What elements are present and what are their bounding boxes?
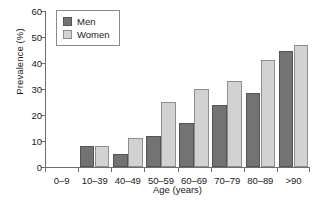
y-axis-line bbox=[45, 11, 46, 168]
bar-men-6 bbox=[246, 93, 261, 167]
bar-women-4 bbox=[194, 89, 209, 167]
x-tick-mark bbox=[309, 168, 310, 172]
x-axis-title: Age (years) bbox=[45, 184, 310, 195]
y-tick-label: 0 bbox=[37, 162, 42, 173]
x-tick-mark bbox=[178, 168, 179, 172]
bar-men-1 bbox=[80, 146, 95, 167]
y-axis-title: Prevalence (%) bbox=[14, 2, 25, 122]
x-tick-mark bbox=[78, 168, 79, 172]
legend-label-men: Men bbox=[77, 17, 95, 27]
bar-women-1 bbox=[95, 146, 110, 167]
y-tick-label: 30 bbox=[31, 84, 42, 95]
legend-item-women: Women bbox=[63, 28, 110, 41]
bar-women-7 bbox=[294, 45, 309, 167]
bar-women-2 bbox=[128, 138, 143, 167]
bar-women-6 bbox=[261, 60, 276, 167]
bar-women-5 bbox=[227, 81, 242, 167]
x-tick-mark bbox=[144, 168, 145, 172]
x-tick-mark bbox=[244, 168, 245, 172]
bar-men-5 bbox=[212, 105, 227, 167]
chart-legend: Men Women bbox=[56, 10, 120, 46]
x-tick-mark bbox=[277, 168, 278, 172]
legend-swatch-men bbox=[63, 17, 72, 26]
legend-item-men: Men bbox=[63, 15, 110, 28]
x-tick-mark bbox=[111, 168, 112, 172]
bar-men-3 bbox=[146, 136, 161, 167]
bar-women-3 bbox=[161, 102, 176, 167]
bar-men-4 bbox=[179, 123, 194, 167]
x-tick-mark bbox=[211, 168, 212, 172]
y-tick-label: 10 bbox=[31, 136, 42, 147]
y-tick-label: 50 bbox=[31, 32, 42, 43]
prevalence-by-age-bar-chart: Prevalence (%) 0102030405060 0–910–3940–… bbox=[0, 0, 318, 203]
bar-men-2 bbox=[113, 154, 128, 167]
legend-swatch-women bbox=[63, 30, 72, 39]
y-tick-label: 20 bbox=[31, 110, 42, 121]
y-tick-label: 40 bbox=[31, 58, 42, 69]
y-tick-label: 60 bbox=[31, 6, 42, 17]
legend-label-women: Women bbox=[77, 30, 110, 40]
x-tick-mark bbox=[45, 168, 46, 172]
bar-men-7 bbox=[279, 51, 294, 167]
